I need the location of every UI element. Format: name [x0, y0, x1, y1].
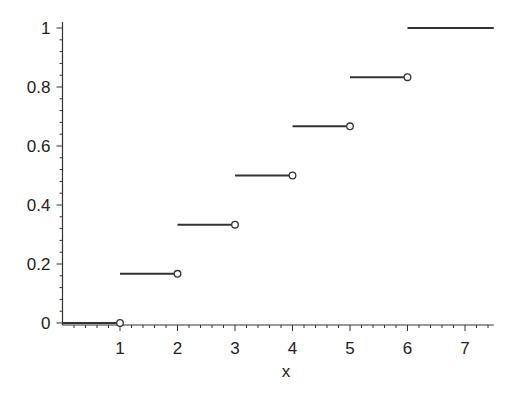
open-endpoint-marker	[347, 123, 354, 130]
x-axis-label: x	[282, 362, 291, 381]
x-tick-label: 6	[403, 339, 412, 358]
open-endpoint-marker	[404, 74, 411, 81]
y-tick-label: 0.4	[27, 196, 51, 215]
x-tick-label: 3	[230, 339, 239, 358]
x-tick-label: 1	[115, 339, 124, 358]
open-endpoint-marker	[289, 172, 296, 179]
open-endpoint-marker	[232, 221, 239, 228]
x-tick-label: 2	[173, 339, 182, 358]
x-tick-label: 7	[460, 339, 469, 358]
step-chart: 00.20.40.60.811234567 x	[0, 0, 511, 394]
y-tick-label: 0.6	[27, 137, 51, 156]
plot-area	[63, 28, 494, 326]
tick-labels: 00.20.40.60.811234567	[27, 19, 470, 358]
x-tick-label: 4	[288, 339, 297, 358]
y-tick-label: 1	[41, 19, 50, 38]
x-tick-label: 5	[345, 339, 354, 358]
y-tick-label: 0.8	[27, 78, 51, 97]
y-tick-label: 0	[41, 314, 50, 333]
open-endpoint-marker	[174, 271, 181, 278]
open-endpoint-marker	[117, 320, 124, 327]
y-tick-label: 0.2	[27, 255, 51, 274]
